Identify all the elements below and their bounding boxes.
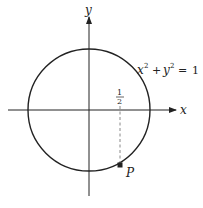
y-axis-label: y	[84, 3, 92, 17]
point-p-label: P	[125, 166, 135, 180]
x-axis-label: x	[180, 103, 187, 117]
tick-denominator: 2	[117, 97, 122, 106]
svg-text:2: 2	[170, 62, 174, 70]
unit-circle-diagram: y x 1 2 P x 2 + y 2 = 1	[0, 0, 203, 208]
svg-text:+: +	[152, 64, 161, 77]
svg-text:1: 1	[192, 64, 199, 77]
point-p-marker	[118, 163, 123, 168]
tick-numerator: 1	[117, 88, 122, 97]
svg-text:x: x	[137, 63, 144, 77]
svg-text:=: =	[178, 64, 187, 77]
circle-equation: x 2 + y 2 = 1	[137, 62, 199, 77]
svg-text:y: y	[162, 63, 170, 77]
svg-text:2: 2	[144, 62, 148, 70]
